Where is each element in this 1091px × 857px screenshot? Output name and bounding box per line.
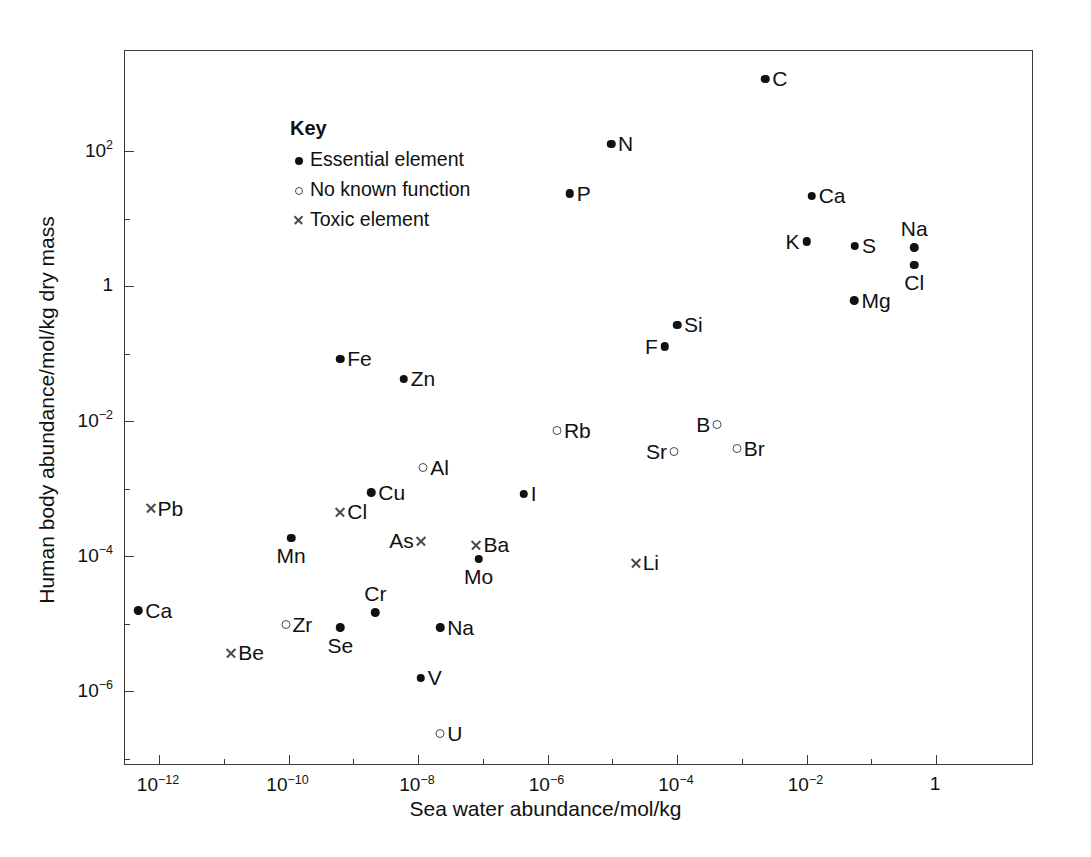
filled-circle-marker bbox=[910, 243, 919, 252]
open-circle-marker bbox=[295, 187, 303, 195]
filled-circle-marker bbox=[910, 261, 919, 270]
x-tick-label: 10−4 bbox=[658, 773, 693, 796]
data-point-marker bbox=[134, 601, 143, 619]
data-point-marker bbox=[732, 439, 741, 457]
cross-marker bbox=[293, 215, 304, 226]
data-point-marker bbox=[673, 315, 682, 333]
data-point-marker bbox=[367, 483, 376, 501]
filled-circle-marker bbox=[761, 75, 770, 84]
data-point-label: K bbox=[785, 230, 799, 251]
data-point-label: Na bbox=[901, 218, 928, 239]
data-point-label: Sr bbox=[646, 440, 667, 461]
filled-circle-marker bbox=[807, 192, 816, 201]
data-point-label: Cl bbox=[904, 272, 924, 293]
scatter-chart-figure: Human body abundance/mol/kg dry mass CNP… bbox=[0, 0, 1091, 857]
y-tick-label: 10−2 bbox=[58, 408, 113, 431]
legend-item-label: No known function bbox=[310, 175, 470, 205]
data-point-marker bbox=[565, 184, 574, 202]
open-circle-marker bbox=[281, 620, 290, 629]
filled-circle-marker bbox=[399, 375, 408, 384]
data-point-marker bbox=[436, 724, 445, 742]
data-point-marker bbox=[334, 502, 346, 520]
data-point-label: U bbox=[447, 722, 462, 743]
data-point-marker bbox=[436, 618, 445, 636]
legend-item: No known function bbox=[290, 175, 470, 205]
filled-circle-marker bbox=[336, 355, 345, 364]
data-point-label: Cl bbox=[347, 501, 367, 522]
legend-marker bbox=[290, 145, 307, 175]
data-point-marker bbox=[415, 531, 427, 549]
data-point-marker bbox=[630, 553, 642, 571]
data-point-label: N bbox=[618, 133, 633, 154]
data-point-label: Br bbox=[744, 437, 765, 458]
cross-marker bbox=[630, 557, 642, 569]
data-point-marker bbox=[419, 458, 428, 476]
data-point-label: Ba bbox=[483, 534, 509, 555]
filled-circle-marker bbox=[520, 490, 529, 499]
data-point-label: Mo bbox=[464, 566, 493, 587]
x-tick-label: 10−2 bbox=[788, 773, 823, 796]
data-point-marker bbox=[851, 236, 860, 254]
data-point-label: Mn bbox=[277, 545, 306, 566]
filled-circle-marker bbox=[565, 189, 574, 198]
x-tick-label: 1 bbox=[930, 773, 941, 795]
data-point-label: Cr bbox=[364, 583, 386, 604]
filled-circle-marker bbox=[134, 606, 143, 615]
x-tick-label: 10−10 bbox=[266, 773, 308, 796]
filled-circle-marker bbox=[416, 674, 425, 683]
open-circle-marker bbox=[419, 463, 428, 472]
filled-circle-marker bbox=[367, 488, 376, 497]
data-point-label: Ca bbox=[819, 185, 846, 206]
filled-circle-marker bbox=[851, 242, 860, 251]
data-point-label: Na bbox=[447, 616, 474, 637]
open-circle-marker bbox=[670, 447, 679, 456]
data-point-marker bbox=[761, 69, 770, 87]
data-point-marker bbox=[807, 186, 816, 204]
x-tick-label: 10−6 bbox=[529, 773, 564, 796]
legend-key: Key Essential elementNo known functionTo… bbox=[290, 113, 470, 234]
filled-circle-marker bbox=[802, 237, 811, 246]
data-point-marker bbox=[552, 421, 561, 439]
filled-circle-marker bbox=[287, 534, 296, 543]
data-point-marker bbox=[607, 134, 616, 152]
data-point-marker bbox=[399, 369, 408, 387]
data-point-label: As bbox=[389, 530, 414, 551]
data-point-label: Be bbox=[238, 641, 264, 662]
legend-item-label: Toxic element bbox=[310, 205, 429, 235]
legend-title: Key bbox=[290, 113, 470, 143]
filled-circle-marker bbox=[474, 555, 483, 564]
y-tick-label: 102 bbox=[58, 138, 113, 161]
data-point-label: Li bbox=[643, 551, 659, 572]
data-point-label: Zn bbox=[411, 368, 436, 389]
data-point-marker bbox=[910, 238, 919, 256]
data-point-marker bbox=[371, 603, 380, 621]
y-axis-title: Human body abundance/mol/kg dry mass bbox=[35, 130, 59, 690]
data-point-label: Si bbox=[684, 314, 703, 335]
legend-item: Toxic element bbox=[290, 205, 470, 235]
x-tick-label: 10−8 bbox=[399, 773, 434, 796]
y-tick-label: 10−6 bbox=[58, 678, 113, 701]
y-tick-label: 1 bbox=[58, 274, 113, 296]
data-point-marker bbox=[336, 349, 345, 367]
filled-circle-marker bbox=[661, 342, 670, 351]
plot-area: CNPCaKSNaClMgSiFFeZnRbBBrSrAlCuIPbClMnAs… bbox=[124, 50, 1033, 765]
data-point-label: B bbox=[696, 414, 710, 435]
data-point-label: Se bbox=[327, 635, 353, 656]
open-circle-marker bbox=[552, 426, 561, 435]
data-point-label: F bbox=[645, 335, 658, 356]
data-point-label: I bbox=[531, 483, 537, 504]
data-point-label: Zr bbox=[293, 613, 313, 634]
open-circle-marker bbox=[436, 729, 445, 738]
filled-circle-marker bbox=[436, 623, 445, 632]
data-point-label: S bbox=[862, 235, 876, 256]
filled-circle-marker bbox=[336, 623, 345, 632]
data-point-label: Mg bbox=[861, 289, 890, 310]
x-tick-label: 10−12 bbox=[137, 773, 179, 796]
y-tick-label: 10−4 bbox=[58, 543, 113, 566]
data-point-label: Fe bbox=[347, 348, 372, 369]
data-point-marker bbox=[850, 291, 859, 309]
data-point-label: V bbox=[428, 667, 442, 688]
legend-marker bbox=[290, 205, 307, 235]
data-points-layer: CNPCaKSNaClMgSiFFeZnRbBBrSrAlCuIPbClMnAs… bbox=[125, 51, 1032, 764]
filled-circle-marker bbox=[673, 321, 682, 330]
